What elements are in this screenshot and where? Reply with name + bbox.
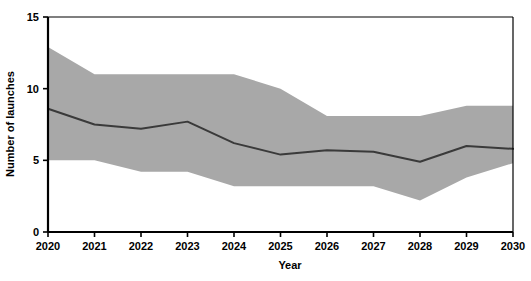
- x-tick-label: 2028: [408, 240, 432, 252]
- y-axis-title: Number of launches: [4, 71, 16, 177]
- y-tick-label: 10: [27, 83, 39, 95]
- x-tick-label: 2024: [222, 240, 247, 252]
- x-tick-label: 2026: [315, 240, 339, 252]
- x-tick-label: 2025: [268, 240, 292, 252]
- chart-container: 051015 202020212022202320242025202620272…: [0, 0, 531, 281]
- x-tick-label: 2023: [175, 240, 199, 252]
- x-tick-label: 2029: [454, 240, 478, 252]
- x-tick-label: 2030: [501, 240, 525, 252]
- y-tick-label: 15: [27, 11, 39, 23]
- y-tick-label: 5: [33, 154, 39, 166]
- x-axis-title: Year: [278, 259, 302, 271]
- x-tick-label: 2022: [129, 240, 153, 252]
- x-tick-label: 2021: [82, 240, 106, 252]
- launches-projection-chart: 051015 202020212022202320242025202620272…: [0, 0, 531, 281]
- x-tick-label: 2020: [36, 240, 60, 252]
- y-tick-label: 0: [33, 226, 39, 238]
- x-tick-label: 2027: [361, 240, 385, 252]
